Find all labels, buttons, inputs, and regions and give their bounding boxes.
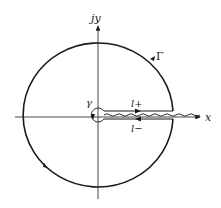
l-minus-label: l− [131, 123, 143, 134]
l-plus-direction-arrow-icon [135, 109, 141, 114]
gamma-small-label: γ [86, 97, 92, 108]
y-axis-label: jy [88, 12, 101, 25]
gamma-direction-arrow-icon [150, 56, 155, 61]
x-axis-label: x [205, 111, 212, 124]
gamma-big-label: Γ [156, 50, 164, 63]
l-plus-label: l+ [131, 98, 143, 109]
contour-diagram: jy x Γ γ l+ l− [0, 0, 221, 208]
branch-cut [104, 114, 200, 117]
